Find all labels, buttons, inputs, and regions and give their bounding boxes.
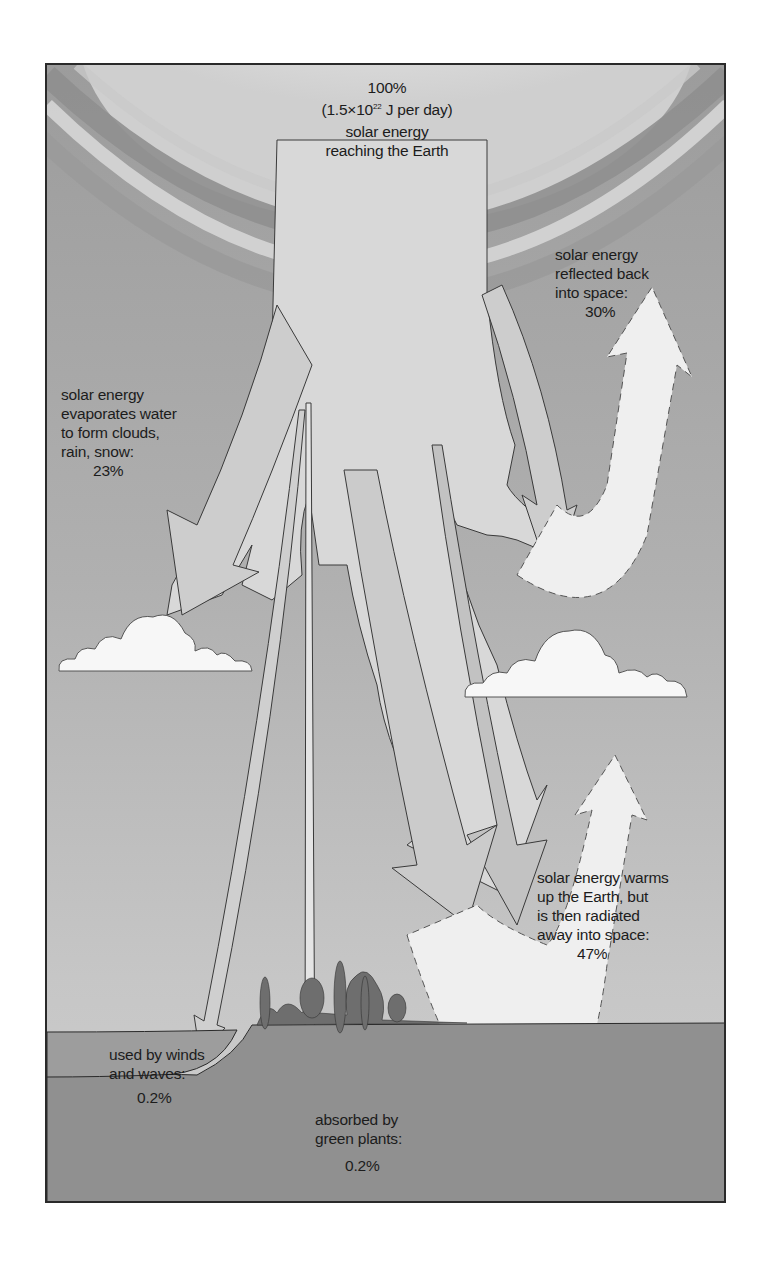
warming-label: solar energy warms up the Earth, but is … — [537, 868, 669, 963]
diagram-artwork — [47, 65, 726, 1203]
evaporation-label: solar energy evaporates water to form cl… — [61, 385, 177, 480]
reflected-label: solar energy reflected back into space: … — [555, 245, 649, 321]
plants-percent: 0.2% — [315, 1156, 402, 1175]
winds-percent: 0.2% — [109, 1088, 205, 1107]
total-energy-value: (1.5×1022 J per day) — [277, 97, 497, 119]
energy-flow-diagram: 100% (1.5×1022 J per day) solar energy r… — [45, 63, 726, 1203]
tree-tall — [334, 961, 346, 1033]
plants-label: absorbed by green plants: 0.2% — [315, 1110, 402, 1175]
warming-percent: 47% — [537, 944, 669, 963]
total-percent: 100% — [277, 78, 497, 97]
total-energy-label: 100% (1.5×1022 J per day) solar energy r… — [277, 78, 497, 160]
evaporation-percent: 23% — [61, 461, 177, 480]
reflected-percent: 30% — [555, 302, 649, 321]
winds-label: used by winds and waves: 0.2% — [109, 1045, 205, 1107]
